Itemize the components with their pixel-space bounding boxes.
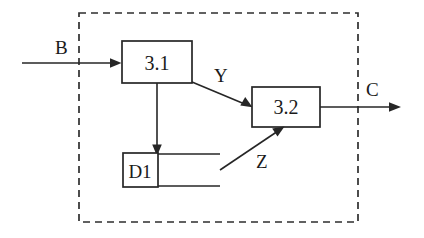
flow-store-write-arrow [152, 83, 162, 156]
process-3-2-label: 3.2 [274, 96, 299, 118]
data-store-d1-label: D1 [128, 161, 151, 182]
flow-z-arrowhead [272, 127, 284, 137]
flow-c-arrow [320, 102, 401, 111]
process-3-1-label: 3.1 [145, 52, 170, 74]
flow-z-line [220, 131, 278, 170]
flow-c-label: C [366, 79, 379, 100]
flow-z-arrow [220, 127, 285, 171]
flow-b-label: B [55, 37, 68, 58]
flow-b-arrowhead [110, 58, 122, 67]
flow-b-arrow [22, 58, 122, 67]
flow-c-arrowhead [389, 102, 401, 111]
flow-z-label: Z [256, 151, 268, 172]
dfd-svg: 3.1 3.2 D1 B Y Z C [0, 0, 424, 238]
dfd-canvas: 3.1 3.2 D1 B Y Z C [0, 0, 424, 238]
flow-y-label: Y [214, 65, 228, 86]
